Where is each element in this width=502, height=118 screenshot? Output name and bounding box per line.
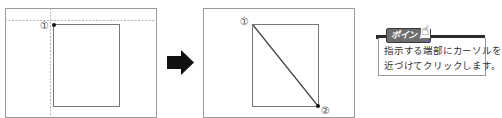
tip-text: 指示する端部にカーソルを 近づけてクリックします。 bbox=[384, 43, 485, 73]
point-2-label-right: ② bbox=[321, 106, 330, 116]
point-1-label-right: ① bbox=[240, 17, 249, 27]
tip-text-line-2: 近づけてクリックします。 bbox=[384, 58, 485, 73]
tip-text-line-1: 指示する端部にカーソルを bbox=[384, 43, 485, 58]
right-point-2 bbox=[316, 104, 320, 108]
left-point-1 bbox=[52, 23, 56, 27]
point-1-label-left: ① bbox=[40, 21, 49, 31]
pointing-hand-icon: ☝ bbox=[421, 22, 430, 38]
right-arrow-icon bbox=[167, 50, 194, 75]
